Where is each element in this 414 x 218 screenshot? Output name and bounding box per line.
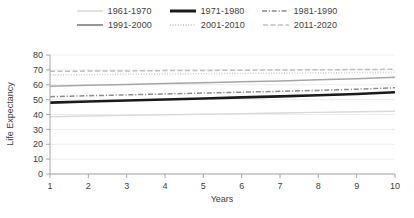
legend-line-swatch-icon bbox=[263, 20, 289, 30]
legend-item-2011-2020[interactable]: 2011-2020 bbox=[263, 20, 337, 30]
legend-item-1961-1970[interactable]: 1961-1970 bbox=[77, 6, 152, 16]
legend-item-1971-1980[interactable]: 1971-1980 bbox=[170, 6, 245, 16]
x-tick-label: 2 bbox=[86, 181, 91, 191]
legend-row: 1991-20002001-20102011-2020 bbox=[77, 20, 337, 30]
chart-legend: 1961-19701971-19801981-19901991-20002001… bbox=[0, 6, 414, 30]
legend-label: 1981-1990 bbox=[293, 6, 337, 16]
legend-line-swatch-icon bbox=[77, 20, 103, 30]
x-tick-label: 8 bbox=[316, 181, 321, 191]
legend-item-1991-2000[interactable]: 1991-2000 bbox=[77, 20, 152, 30]
legend-line-swatch-icon bbox=[170, 6, 196, 16]
y-axis-ticks: 80706050403020100 bbox=[33, 50, 50, 179]
y-tick-label: 40 bbox=[33, 110, 43, 120]
y-tick-label: 20 bbox=[33, 139, 43, 149]
legend-item-1981-1990[interactable]: 1981-1990 bbox=[262, 6, 337, 16]
y-tick-label: 60 bbox=[33, 80, 43, 90]
data-series-group bbox=[50, 69, 395, 116]
x-tick-label: 5 bbox=[201, 181, 206, 191]
legend-label: 2011-2020 bbox=[294, 20, 337, 30]
plot-svg: 80706050403020100 12345678910 Life Expec… bbox=[0, 44, 414, 218]
y-tick-label: 0 bbox=[38, 169, 43, 179]
legend-row: 1961-19701971-19801981-1990 bbox=[77, 6, 338, 16]
x-tick-label: 3 bbox=[124, 181, 129, 191]
y-tick-label: 70 bbox=[33, 65, 43, 75]
legend-item-2001-2010[interactable]: 2001-2010 bbox=[170, 20, 245, 30]
series-line-2001-2010 bbox=[50, 72, 395, 75]
legend-line-swatch-icon bbox=[170, 20, 196, 30]
x-tick-label: 1 bbox=[47, 181, 52, 191]
legend-label: 1971-1980 bbox=[201, 6, 245, 16]
x-tick-label: 6 bbox=[239, 181, 244, 191]
y-tick-label: 10 bbox=[33, 154, 43, 164]
legend-label: 2001-2010 bbox=[201, 20, 245, 30]
y-tick-label: 30 bbox=[33, 125, 43, 135]
x-axis-title: Years bbox=[211, 194, 234, 204]
x-tick-label: 7 bbox=[277, 181, 282, 191]
y-axis-title: Life Expectancy bbox=[5, 82, 15, 146]
legend-label: 1961-1970 bbox=[108, 6, 152, 16]
plot-area-wrapper: 80706050403020100 12345678910 Life Expec… bbox=[0, 44, 414, 218]
y-tick-label: 50 bbox=[33, 95, 43, 105]
x-tick-label: 10 bbox=[390, 181, 400, 191]
x-tick-label: 4 bbox=[162, 181, 167, 191]
life-expectancy-line-chart: 1961-19701971-19801981-19901991-20002001… bbox=[0, 0, 414, 218]
legend-line-swatch-icon bbox=[77, 6, 103, 16]
series-line-1961-1970 bbox=[50, 111, 395, 117]
legend-line-swatch-icon bbox=[262, 6, 288, 16]
series-line-1971-1980 bbox=[50, 92, 395, 102]
x-tick-label: 9 bbox=[354, 181, 359, 191]
legend-label: 1991-2000 bbox=[108, 20, 152, 30]
y-tick-label: 80 bbox=[33, 50, 43, 60]
x-axis-ticks: 12345678910 bbox=[47, 174, 400, 191]
